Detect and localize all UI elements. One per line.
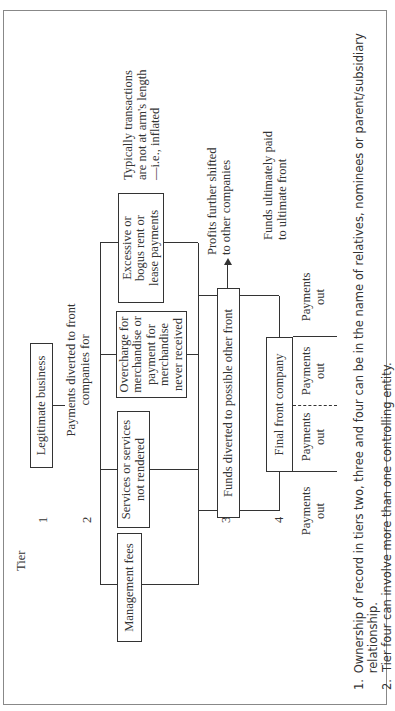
connector-bus-to-funds-right (198, 295, 217, 296)
excessive-rent-box: Excessive or bogus rent or lease payment… (118, 193, 164, 303)
connector-overcharge-bottom (187, 354, 198, 355)
final-front-right-line (293, 336, 337, 337)
overcharge-merchandise-box: Overcharge for merchandise or payment fo… (116, 311, 187, 398)
arms-length-annotation: Typically transactions are not at arm's … (122, 68, 163, 180)
funds-diverted-box: Funds diverted to possible other front (217, 288, 240, 518)
footnotes: 1. Ownership of record in tiers two, thr… (352, 10, 394, 690)
footnote-2: 2. Tier four can involve more than one c… (380, 10, 394, 690)
profits-arrow-line (227, 264, 228, 288)
connector-excessive-top (100, 242, 118, 243)
footnote-2-text: Tier four can involve more than one cont… (380, 362, 394, 672)
connector-mgmt-bottom (142, 584, 198, 585)
arrow-right-icon (224, 258, 232, 265)
funds-ultimately-paid-label: Funds ultimately paid to ultimate front (262, 130, 289, 240)
overcharge-merchandise-label: Overcharge for merchandise or payment fo… (118, 315, 186, 395)
tier2-top-bus-line (100, 243, 101, 585)
final-front-dashed-divider (293, 405, 337, 406)
footnote-2-number: 2. (380, 672, 394, 690)
connector-funds-to-final-right (240, 295, 279, 296)
connector-overcharge-top (100, 354, 116, 355)
legitimate-business-label: Legitimate business (35, 356, 49, 456)
connector-funds-to-final-right-h (279, 296, 280, 337)
services-not-rendered-box: Services or services not rendered (117, 411, 150, 528)
connector-services-top (100, 469, 117, 470)
footnote-1-number: 1. (352, 673, 380, 690)
excessive-rent-label: Excessive or bogus rent or lease payment… (121, 202, 162, 294)
payments-out-3: Payments out (300, 341, 327, 401)
footnote-1: 1. Ownership of record in tiers two, thr… (352, 10, 380, 690)
tier-label-2: 2 (80, 517, 95, 523)
connector-funds-to-final-left (240, 510, 279, 511)
payments-out-4: Payments out (300, 267, 327, 327)
payments-out-1: Payments out (300, 481, 327, 541)
connector-excessive-bottom (164, 242, 198, 243)
connector-services-bottom (150, 469, 198, 470)
payments-diverted-label: Payments diverted to front companies for (65, 300, 92, 440)
connector-mgmt-top (100, 584, 117, 585)
funds-diverted-label: Funds diverted to possible other front (222, 309, 236, 497)
tier-header: Tier (14, 551, 29, 571)
final-front-left-line (293, 471, 337, 472)
connector-funds-to-final-left-h (279, 472, 280, 511)
management-fees-label: Management fees (123, 543, 137, 632)
front-company-flow-diagram: Tier 1 2 3 4 Legitimate business Payment… (0, 0, 395, 711)
final-front-company-label: Final front company (273, 353, 287, 455)
legitimate-business-box: Legitimate business (30, 343, 53, 468)
profits-shifted-label: Profits further shifted to other compani… (206, 135, 233, 255)
management-fees-box: Management fees (117, 533, 142, 642)
services-not-rendered-label: Services or services not rendered (120, 420, 147, 520)
final-front-company-box: Final front company (266, 337, 293, 472)
payments-out-2: Payments out (300, 408, 327, 466)
diagram-frame (3, 10, 387, 705)
footnote-1-text: Ownership of record in tiers two, three … (352, 10, 380, 673)
tier-label-4: 4 (272, 517, 287, 523)
tier-label-1: 1 (36, 517, 51, 523)
connector-bus-to-funds-left (198, 510, 217, 511)
